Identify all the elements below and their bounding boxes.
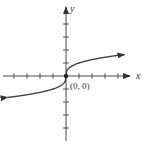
cube-root-graph: x y (0, 0) xyxy=(0,0,142,147)
origin-point xyxy=(64,74,68,78)
origin-label: (0, 0) xyxy=(70,81,90,91)
y-axis-label: y xyxy=(69,3,75,14)
x-axis-label: x xyxy=(135,70,141,81)
